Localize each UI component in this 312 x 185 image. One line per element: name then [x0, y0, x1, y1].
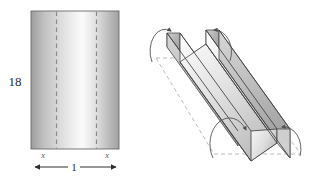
- sheet-rectangle: [31, 11, 119, 149]
- flat-sheet-diagram: 18 x x 1: [9, 11, 120, 173]
- math-figure-svg: 18 x x 1: [0, 0, 312, 185]
- fold-offset-label-right: x: [104, 151, 109, 160]
- folded-gutter-diagram: [150, 29, 301, 161]
- figure-container: 18 x x 1: [0, 0, 312, 185]
- height-label-18: 18: [9, 74, 22, 89]
- width-label-1: 1: [71, 161, 77, 173]
- fold-offset-label-left: x: [40, 151, 45, 160]
